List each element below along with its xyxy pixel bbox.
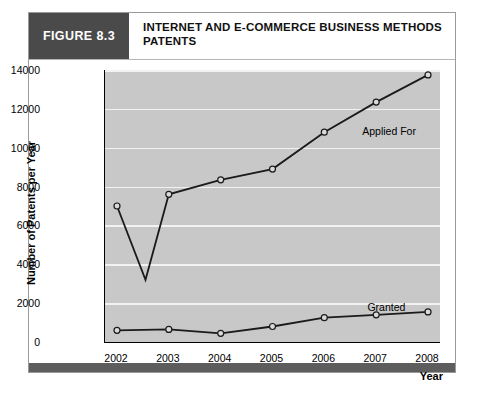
series-label: Granted [367,301,405,313]
y-axis-tick-label: 8000 [0,181,40,193]
chart-region: Number of Patents per Year 0200040006000… [29,60,455,373]
y-axis-tick-label: 12000 [0,103,40,115]
y-axis-tick-label: 2000 [0,297,40,309]
figure-container: FIGURE 8.3 INTERNET AND E-COMMERCE BUSIN… [28,12,456,373]
figure-number-badge: FIGURE 8.3 [29,13,129,59]
data-point-marker [270,324,276,330]
y-axis-tick-label: 10000 [0,142,40,154]
data-point-marker [321,129,327,135]
y-axis-tick-label: 6000 [0,219,40,231]
series-line [117,75,428,280]
figure-title: INTERNET AND E-COMMERCE BUSINESS METHODS… [129,13,455,59]
data-point-marker [218,177,224,183]
data-point-marker [114,327,120,333]
data-point-marker [114,203,120,209]
figure-bottom-bar [29,363,455,372]
y-axis-tick-label: 4000 [0,258,40,270]
series-label: Applied For [362,125,416,137]
y-axis-tick-label: 14000 [0,64,40,76]
data-point-marker [218,330,224,336]
data-point-marker [166,191,172,197]
data-point-marker [425,309,431,315]
data-point-marker [166,326,172,332]
data-point-marker [321,315,327,321]
data-point-marker [425,72,431,78]
data-point-marker [373,99,379,105]
figure-header: FIGURE 8.3 INTERNET AND E-COMMERCE BUSIN… [29,13,455,60]
y-axis-tick-label: 0 [0,336,40,348]
data-point-marker [270,166,276,172]
